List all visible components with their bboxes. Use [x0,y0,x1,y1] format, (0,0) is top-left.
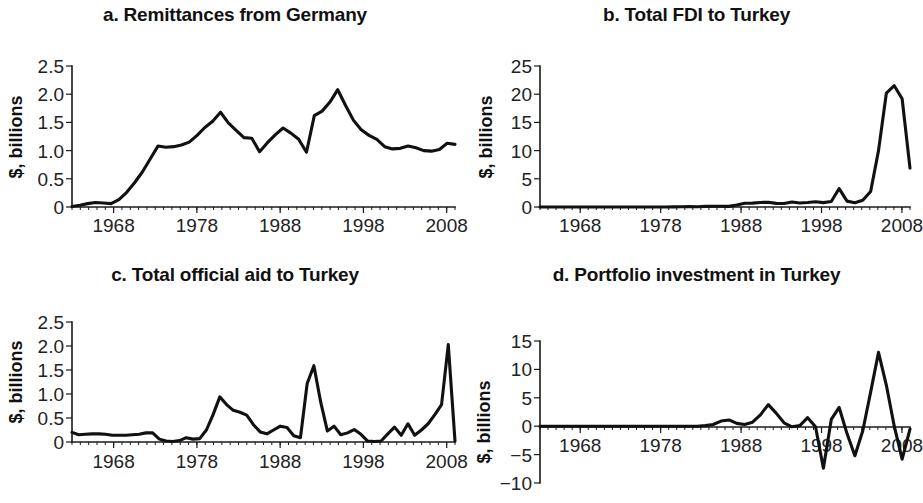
panel-c-y-tick-label: 0.5 [38,408,64,429]
panel-a-series-line [72,90,455,207]
panel-a-x-tick-labels: 19681978198819982008 [92,215,467,236]
panel-a-plot: 2.52.01.51.00.50 19681978198819982008 $,… [0,0,470,250]
panel-d-x-tick-label: 1978 [640,435,682,456]
panel-d: d. Portfolio investment in Turkey 151050… [470,262,923,503]
panel-b-y-tick-label: 20 [511,84,532,105]
panel-a-y-tick-label: 1.5 [38,112,64,133]
panel-d-y-tick-labels: 151050−5−10 [500,331,532,494]
panel-b-y-tick-label: 15 [511,112,532,133]
panel-b-y-ticks [534,66,540,207]
panel-b-y-tick-label: 5 [521,169,532,190]
panel-b-y-tick-label: 10 [511,141,532,162]
panel-d-y-tick-label: 0 [521,416,532,437]
panel-c-y-tick-label: 1.0 [38,384,64,405]
panel-d-y-tick-label: −5 [510,445,532,466]
panel-c-x-tick-label: 1968 [92,451,134,472]
panel-d-plot: 151050−5−10 19681978198819982008 $, bill… [470,262,923,503]
panel-b-plot: 2520151050 19681978198819982008 $, billi… [470,0,923,250]
panel-a-y-tick-label: 2.5 [38,56,64,77]
figure-panel-grid: a. Remittances from Germany 2.52.01.51.0… [0,0,923,503]
panel-b-x-tick-label: 1998 [800,215,842,236]
panel-b-x-tick-label: 1978 [640,215,682,236]
panel-c-x-tick-label: 1998 [342,451,384,472]
panel-b-x-tick-labels: 19681978198819982008 [559,215,923,236]
panel-a-x-tick-label: 1988 [259,215,301,236]
panel-a-ylabel: $, billions [6,95,26,178]
panel-a-y-ticks [66,66,72,207]
panel-c-x-ticks [72,442,455,448]
panel-c-y-tick-label: 1.5 [38,360,64,381]
panel-a-x-tick-label: 2008 [426,215,468,236]
panel-d-x-ticks [540,427,910,433]
panel-b-y-tick-labels: 2520151050 [511,56,532,218]
panel-d-y-tick-label: 10 [511,359,532,380]
panel-d-y-tick-label: 5 [521,388,532,409]
panel-a-y-tick-label: 2.0 [38,84,64,105]
panel-c-series-line [72,345,455,442]
panel-b-x-tick-label: 1988 [720,215,762,236]
panel-a: a. Remittances from Germany 2.52.01.51.0… [0,0,470,250]
panel-a-y-tick-labels: 2.52.01.51.00.50 [38,56,64,218]
panel-d-ylabel: $, billions [474,380,494,463]
panel-b-y-tick-label: 0 [521,197,532,218]
panel-a-y-tick-label: 0 [53,197,64,218]
panel-a-x-tick-label: 1998 [342,215,384,236]
panel-b: b. Total FDI to Turkey 2520151050 196819… [470,0,923,250]
panel-a-x-tick-label: 1968 [92,215,134,236]
panel-d-y-ticks [534,341,540,483]
panel-b-x-tick-label: 2008 [881,215,923,236]
panel-c-plot: 2.52.01.51.00.50 19681978198819982008 $,… [0,262,470,503]
panel-c-x-tick-labels: 19681978198819982008 [92,451,467,472]
panel-d-x-tick-label: 1988 [720,435,762,456]
panel-d-y-tick-label: −10 [500,473,532,494]
panel-b-ylabel: $, billions [476,95,496,178]
panel-d-x-tick-label: 1968 [559,435,601,456]
panel-b-x-tick-label: 1968 [559,215,601,236]
panel-b-series-line [540,86,910,207]
panel-c-y-tick-label: 2.0 [38,336,64,357]
panel-c: c. Total official aid to Turkey 2.52.01.… [0,262,470,503]
panel-d-y-tick-label: 15 [511,331,532,352]
panel-a-x-tick-label: 1978 [176,215,218,236]
panel-d-x-tick-labels: 19681978198819982008 [559,435,923,456]
panel-b-y-tick-label: 25 [511,56,532,77]
panel-c-y-tick-label: 0 [53,432,64,453]
panel-c-y-ticks [66,322,72,442]
panel-a-y-tick-label: 1.0 [38,141,64,162]
panel-a-x-ticks [72,207,455,213]
panel-c-ylabel: $, billions [6,340,26,423]
panel-c-x-tick-label: 1988 [259,451,301,472]
panel-c-y-tick-label: 2.5 [38,312,64,333]
panel-c-x-tick-label: 2008 [426,451,468,472]
panel-c-y-tick-labels: 2.52.01.51.00.50 [38,312,64,453]
panel-c-x-tick-label: 1978 [176,451,218,472]
panel-a-y-tick-label: 0.5 [38,169,64,190]
